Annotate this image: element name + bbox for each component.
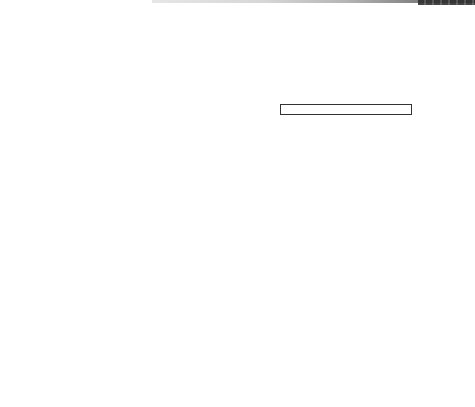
citation-trend-figure [0, 0, 475, 407]
chart-legend [280, 104, 412, 115]
line-chart-canvas [0, 0, 475, 407]
